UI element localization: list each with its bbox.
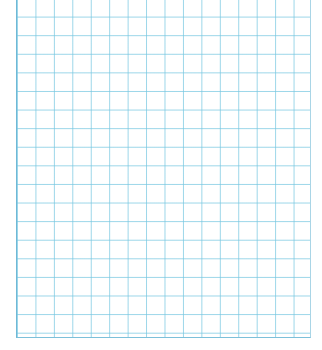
graph-paper-grid [16,0,311,338]
